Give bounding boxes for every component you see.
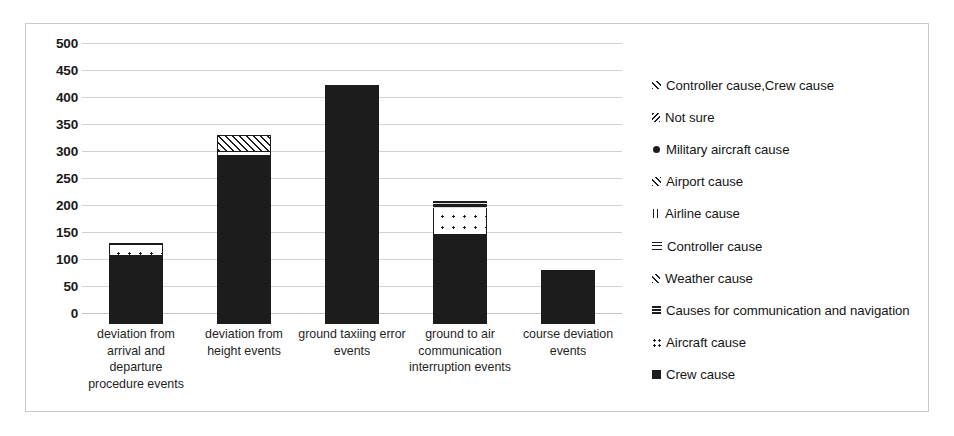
legend-label: Aircraft cause [666,335,746,350]
plot-area: 500450400350300250200150100500 deviation… [26,24,646,413]
swatch-weather-icon [652,274,660,283]
swatch-controller-icon [652,242,662,250]
legend-label: Crew cause [666,367,735,382]
stacked-bar[interactable] [109,243,163,324]
legend-item-9[interactable]: Aircraft cause [652,334,746,352]
legend-label: Military aircraft cause [666,142,789,157]
bar-segment[interactable] [325,87,379,324]
legend-label: Causes for communication and navigation [666,303,910,318]
legend-label: Weather cause [665,271,753,286]
legend-item-7[interactable]: Weather cause [652,269,753,287]
legend-item-3[interactable]: Military aircraft cause [652,140,789,158]
bar-slot-5 [514,54,622,324]
x-axis-label-4: ground to air communication interruption… [406,326,514,376]
chart-legend: Controller cause,Crew causeNot sureMilit… [652,76,952,388]
y-axis-tick-100: 100 [26,252,78,267]
y-axis-tick-200: 200 [26,198,78,213]
bar-segment[interactable] [217,135,271,152]
swatch-controller-crew-icon [652,81,661,89]
legend-item-4[interactable]: Airport cause [652,173,743,191]
bar-segment[interactable] [109,245,163,255]
x-axis-label-3: ground taxiing error events [298,326,406,359]
stacked-bar[interactable] [433,201,487,324]
legend-item-5[interactable]: Airline cause [652,205,740,223]
swatch-not-sure-icon [652,113,660,122]
bar-segment[interactable] [433,234,487,324]
legend-item-10[interactable]: Crew cause [652,366,735,384]
bar-series-group [82,24,622,324]
legend-item-2[interactable]: Not sure [652,108,714,126]
y-axis-tick-labels: 500450400350300250200150100500 [26,24,78,324]
y-axis-tick-500: 500 [26,36,78,51]
stacked-bar[interactable] [325,85,379,324]
legend-item-1[interactable]: Controller cause,Crew cause [652,76,834,94]
y-axis-tick-150: 150 [26,225,78,240]
swatch-communication-navigation-icon [652,306,661,315]
bar-segment[interactable] [433,208,487,234]
swatch-airline-icon [653,209,660,218]
legend-label: Controller cause [667,239,762,254]
swatch-military-aircraft-icon [653,146,660,153]
swatch-crew-icon [652,370,661,379]
chart-frame: 500450400350300250200150100500 deviation… [25,23,929,412]
legend-label: Airport cause [666,174,743,189]
y-axis-tick-400: 400 [26,90,78,105]
legend-label: Controller cause,Crew cause [666,78,834,93]
legend-item-6[interactable]: Controller cause [652,237,762,255]
bar-segment[interactable] [217,155,271,324]
stacked-bar[interactable] [217,135,271,324]
y-axis-tick-0: 0 [26,306,78,321]
y-axis-tick-50: 50 [26,279,78,294]
bar-slot-3 [298,54,406,324]
x-axis-label-2: deviation from height events [190,326,298,359]
legend-item-8[interactable]: Causes for communication and navigation [652,301,910,319]
x-axis-label-1: deviation from arrival and departure pro… [82,326,190,392]
y-axis-tick-300: 300 [26,144,78,159]
bar-segment[interactable] [541,270,595,324]
bar-slot-4 [406,54,514,324]
legend-label: Airline cause [665,206,740,221]
swatch-aircraft-icon [652,338,661,347]
x-axis-label-5: course deviation events [514,326,622,359]
bar-slot-1 [82,54,190,324]
y-axis-tick-450: 450 [26,63,78,78]
bar-segment[interactable] [433,201,487,208]
y-axis-tick-350: 350 [26,117,78,132]
x-axis-category-labels: deviation from arrival and departure pro… [82,326,622,412]
bar-slot-2 [190,54,298,324]
legend-label: Not sure [665,110,714,125]
swatch-airport-icon [652,177,661,186]
stacked-bar[interactable] [541,270,595,324]
y-axis-tick-250: 250 [26,171,78,186]
chart-screenshot: 500450400350300250200150100500 deviation… [0,0,954,436]
bar-segment[interactable] [109,255,163,324]
